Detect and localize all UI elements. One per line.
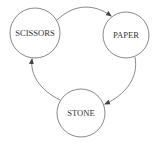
node-label: PAPER: [113, 30, 139, 40]
edge-paper-to-stone: [105, 57, 136, 104]
node-label: STONE: [67, 108, 95, 118]
node-paper: PAPER: [103, 12, 149, 58]
node-scissors: SCISSORS: [10, 8, 60, 58]
node-label: SCISSORS: [15, 28, 55, 38]
node-stone: STONE: [57, 89, 105, 137]
edge-scissors-to-paper: [57, 7, 111, 20]
edge-stone-to-scissors: [32, 59, 60, 100]
cycle-diagram: SCISSORS PAPER STONE: [0, 0, 162, 145]
